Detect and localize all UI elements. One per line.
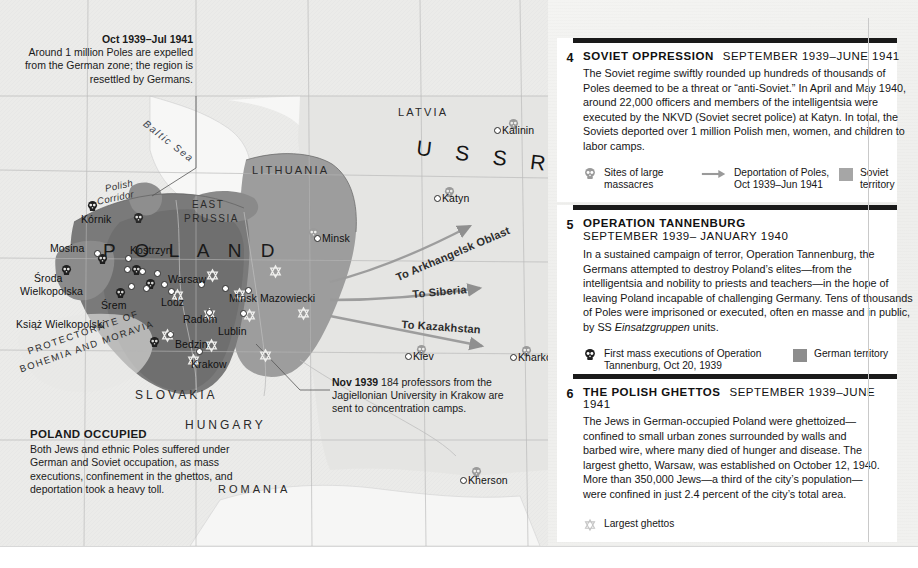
city-dot [196,348,203,355]
panel-date: SEPTEMBER 1939–JUNE 1941 [723,50,900,62]
color-swatch-soviet [839,168,853,181]
panel-title: SOVIET OPPRESSION [583,50,714,62]
panel-title: OPERATION TANNENBURG [583,217,746,229]
skull-icon [415,344,428,357]
city-dot [206,309,213,316]
skull-icon [583,348,597,362]
panel-date: SEPTEMBER 1939– JANUARY 1940 [583,230,913,242]
legend-label: Sites of large massacres [604,167,701,192]
city-dot [161,281,168,288]
panel-legend: First mass executions of Operation Tanne… [583,348,913,373]
skull-icon [583,167,597,181]
map-region[interactable]: Baltic Sea LATVIA LITHUANIA EAST PRUSSIA… [0,0,548,546]
panel-body-text: The Jews in German-occupied Poland were … [583,414,883,502]
skull-icon [520,345,533,358]
panel-number: 4 [557,50,583,192]
panel-heading: SOVIET OPPRESSIONSEPTEMBER 1939–JUNE 194… [583,50,913,62]
city-dot [143,285,150,292]
panel-polish-ghettos[interactable]: 6 THE POLISH GHETTOSSEPTEMBER 1939–JUNE … [557,374,897,542]
legend-label: German territory [814,348,888,361]
city-dot [128,283,135,290]
panel-legend: Sites of large massacres Deportation of … [583,167,913,192]
legend-item-massacres: Sites of large massacres [583,167,701,192]
panel-title: THE POLISH GHETTOS [583,386,720,398]
color-swatch-german [793,349,807,362]
city-dot [434,195,441,202]
city-dot [154,270,161,277]
panel-number: 5 [557,217,583,373]
arrow-icon [701,167,727,181]
city-dot [198,281,205,288]
callout-poland-occupied: POLAND OCCUPIED Both Jews and ethnic Pol… [30,428,245,496]
city-dot [167,331,174,338]
city-dot [245,287,252,294]
skull-icon [507,118,520,131]
skull-icon [132,212,145,225]
city-dot [405,353,412,360]
star-of-david-icon [296,306,311,321]
callout-expulsion: Oct 1939–Jul 1941 Around 1 million Poles… [18,33,193,86]
star-of-david-icon [186,353,201,368]
legend-label: Largest ghettos [604,518,674,531]
skull-icon [86,200,99,213]
callout-expulsion-date: Oct 1939–Jul 1941 [102,33,193,45]
infographic-page: Baltic Sea LATVIA LITHUANIA EAST PRUSSIA… [0,0,918,568]
skull-icon [470,466,483,479]
right-border-rule [868,18,869,542]
city-dot [94,250,101,257]
panels-column: 4 SOVIET OPPRESSIONSEPTEMBER 1939–JUNE 1… [553,0,918,568]
callout-expulsion-text: Around 1 million Poles are expelled from… [25,46,193,84]
legend-item-largest-ghettos: Largest ghettos [583,518,674,532]
callout-poland-occupied-text: Both Jews and ethnic Poles suffered unde… [30,443,245,496]
skull-icon [114,287,127,300]
city-dot [125,255,132,262]
city-dot [314,235,321,242]
panel-operation-tannenburg[interactable]: 5 OPERATION TANNENBURG SEPTEMBER 1939– J… [557,205,897,383]
star-of-david-icon [268,264,283,279]
star-of-david-icon [583,518,597,532]
city-dot [240,310,247,317]
skull-icon [60,264,73,277]
legend-item-soviet-territory: Soviet territory [839,167,913,192]
star-of-david-icon [258,348,273,363]
city-dot [139,268,146,275]
callout-poland-occupied-title: POLAND OCCUPIED [30,428,245,441]
city-dot [460,477,467,484]
legend-label: Deportation of Poles, Oct 1939–Jun 1941 [734,167,839,192]
city-dot [222,285,229,292]
city-dot [510,354,517,361]
star-of-david-icon [204,338,219,353]
star-of-david-icon [205,268,220,283]
skull-icon [443,186,456,199]
legend-item-deportation: Deportation of Poles, Oct 1939–Jun 1941 [701,167,839,192]
city-dot [168,288,175,295]
callout-professors: Nov 1939 184 professors from the Jagiell… [332,376,507,416]
legend-item-german-territory: German territory [793,348,913,362]
panel-body-text: In a sustained campaign of terror, Opera… [583,247,913,335]
panel-body-text: The Soviet regime swiftly rounded up hun… [583,66,913,154]
panel-legend: Largest ghettos [583,518,883,532]
panel-soviet-oppression[interactable]: 4 SOVIET OPPRESSIONSEPTEMBER 1939–JUNE 1… [557,38,897,202]
city-dot [494,127,501,134]
callout-professors-date: Nov 1939 [332,376,378,388]
panel-heading: OPERATION TANNENBURG SEPTEMBER 1939– JAN… [583,217,913,242]
legend-label: First mass executions of Operation Tanne… [604,348,793,373]
bottom-border-rule [0,546,918,547]
legend-item-first-mass-executions: First mass executions of Operation Tanne… [583,348,793,373]
panel-number: 6 [557,386,583,532]
panel-heading: THE POLISH GHETTOSSEPTEMBER 1939–JUNE 19… [583,386,883,410]
city-dot [124,266,131,273]
